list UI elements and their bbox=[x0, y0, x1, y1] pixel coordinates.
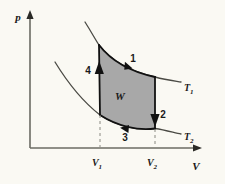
isotherm-label-t1: T1 bbox=[184, 82, 194, 96]
x-axis-label: V bbox=[192, 160, 201, 172]
tick-label-v2: V2 bbox=[147, 157, 158, 171]
cycle-path-4-adiabatic-left bbox=[99, 45, 100, 115]
x-axis-arrowhead bbox=[193, 144, 202, 151]
tick-label-v1: V1 bbox=[92, 157, 102, 171]
tick-label-v1-sub: 1 bbox=[99, 163, 103, 171]
tick-label-v2-sub: 2 bbox=[153, 163, 158, 171]
isotherm-label-t2: T2 bbox=[184, 131, 194, 145]
y-axis-arrowhead bbox=[26, 10, 33, 19]
step-label-3: 3 bbox=[122, 132, 128, 143]
y-axis-label: p bbox=[14, 11, 21, 23]
carnot-cycle-figure: p V 1 2 3 4 W T1 T2 bbox=[0, 0, 225, 184]
cycle-work-area bbox=[99, 45, 155, 129]
step-label-1: 1 bbox=[130, 53, 136, 64]
isotherm-label-t1-sub: 1 bbox=[190, 88, 194, 96]
step-label-4: 4 bbox=[85, 65, 91, 76]
isotherm-label-t2-sub: 2 bbox=[189, 137, 194, 145]
step-label-2: 2 bbox=[160, 109, 166, 120]
work-label: W bbox=[115, 90, 126, 102]
